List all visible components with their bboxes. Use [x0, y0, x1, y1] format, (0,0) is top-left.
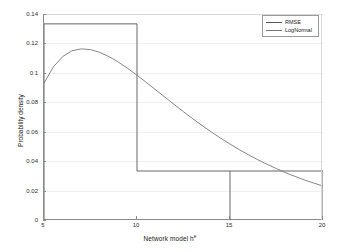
plot-area: [43, 14, 322, 220]
x-tick-label: 5: [41, 222, 44, 228]
y-tick-mark: [43, 73, 46, 74]
y-tick-mark: [43, 132, 46, 133]
y-tick-label: 0.14: [0, 11, 43, 17]
y-tick-label: 0.12: [0, 40, 43, 46]
lognormal-curve: [44, 49, 323, 186]
legend-item-rmse[interactable]: RMSE: [265, 18, 316, 26]
y-tick-mark: [43, 220, 46, 221]
y-tick-mark: [43, 161, 46, 162]
y-tick-mark: [43, 102, 46, 103]
legend[interactable]: RMSE LogNormal: [262, 15, 319, 37]
x-tick-mark: [136, 216, 137, 220]
y-tick-mark: [43, 14, 46, 15]
x-tick-label: 10: [133, 222, 140, 228]
y-tick-mark: [43, 191, 46, 192]
x-tick-mark: [43, 216, 44, 220]
x-tick-mark: [229, 216, 230, 220]
y-tick-label: 0: [0, 217, 43, 223]
x-tick-label: 20: [319, 222, 326, 228]
plot-frame-right: [321, 14, 322, 220]
x-tick-mark: [322, 216, 323, 220]
legend-swatch-lognormal: [266, 30, 282, 31]
y-tick-mark: [43, 43, 46, 44]
x-tick-label: 15: [226, 222, 233, 228]
legend-label-lognormal: LogNormal: [285, 26, 312, 34]
x-axis-title: Network model he: [0, 234, 340, 242]
y-axis-title: Probability density: [17, 61, 24, 181]
legend-swatch-rmse: [266, 22, 282, 23]
legend-item-lognormal[interactable]: LogNormal: [265, 26, 316, 34]
y-tick-label: 0.02: [0, 188, 43, 194]
chart-svg: [44, 14, 323, 220]
histogram-outline: [44, 24, 323, 220]
legend-label-rmse: RMSE: [285, 18, 301, 26]
figure-canvas: 00.020.040.060.080.10.120.145101520 Netw…: [0, 0, 340, 252]
